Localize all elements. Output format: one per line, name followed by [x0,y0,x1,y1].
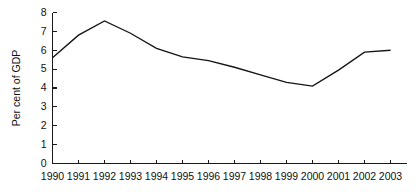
y-tick-label: 2 [41,119,47,131]
y-tick-label: 7 [41,25,47,37]
x-tick-label: 1999 [275,170,299,182]
axis-lines [53,13,407,164]
x-tick-label: 1995 [171,170,195,182]
y-tick-label: 1 [41,138,47,150]
x-tick-label: 2002 [353,170,377,182]
line-chart: Per cent of GDP 012345678 19901991199219… [0,0,417,196]
x-tick-label: 2001 [327,170,351,182]
y-tick-label: 6 [41,44,47,56]
x-tick-label: 1990 [41,170,65,182]
x-tick-label: 1994 [145,170,169,182]
y-tick-label: 3 [41,100,47,112]
data-series-line [53,21,391,86]
x-tick-label: 1997 [223,170,247,182]
y-tick-label: 8 [41,6,47,18]
x-axis-ticks: 1990199119921993199419951996199719981999… [41,160,403,182]
x-tick-label: 1993 [119,170,143,182]
x-tick-label: 1998 [249,170,273,182]
x-tick-label: 1996 [197,170,221,182]
y-tick-label: 5 [41,62,47,74]
chart-container: Per cent of GDP 012345678 19901991199219… [0,0,417,196]
x-tick-label: 1992 [93,170,117,182]
x-tick-label: 2000 [301,170,325,182]
y-axis-title: Per cent of GDP [10,50,22,126]
y-tick-label: 4 [41,81,47,93]
y-axis-ticks: 012345678 [41,6,57,169]
series-polyline [53,21,391,86]
y-axis-title-text: Per cent of GDP [10,50,22,126]
y-tick-label: 0 [41,157,47,169]
x-tick-label: 1991 [67,170,91,182]
x-tick-label: 2003 [379,170,403,182]
